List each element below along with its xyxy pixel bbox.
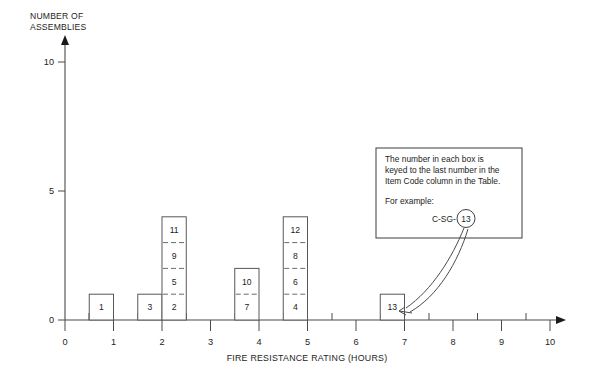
- bar-7: 710: [235, 268, 259, 320]
- bar-segment-value: 3: [147, 302, 152, 312]
- x-axis-title: FIRE RESISTANCE RATING (HOURS): [227, 353, 388, 363]
- annotation-callout: The number in each box is keyed to the l…: [376, 148, 522, 238]
- y-tick-label-0: 0: [49, 315, 54, 325]
- bar-segment-value: 1: [99, 302, 104, 312]
- bar-segment-value: 9: [172, 251, 177, 261]
- bar-13: 13: [380, 294, 404, 320]
- bar-segment-value: 5: [172, 277, 177, 287]
- annotation-leader-arrow: [399, 228, 468, 315]
- annotation-line-1: The number in each box is: [385, 154, 484, 164]
- fire-resistance-histogram-figure: NUMBER OF ASSEMBLIES 0 5 10: [0, 0, 605, 378]
- bar-segment-value: 13: [388, 302, 398, 312]
- annotation-example-circled-number: 13: [461, 214, 471, 224]
- x-tick-label-10: 10: [545, 337, 555, 347]
- bar-2: 25911: [162, 217, 186, 320]
- y-axis-arrowhead: [61, 35, 69, 45]
- bar-segment-value: 12: [291, 225, 301, 235]
- y-axis-title-line1: NUMBER OF: [30, 11, 83, 21]
- bar-segment-value: 7: [244, 302, 249, 312]
- x-tick-label-3: 3: [208, 337, 213, 347]
- x-tick-label-9: 9: [499, 337, 504, 347]
- bar-segment-value: 6: [293, 277, 298, 287]
- bars-group: 13259117104681213: [89, 217, 404, 320]
- x-tick-label-5: 5: [305, 337, 310, 347]
- x-axis-arrowhead: [556, 316, 566, 324]
- x-tick-label-7: 7: [402, 337, 407, 347]
- annotation-line-4: For example:: [385, 196, 434, 206]
- y-tick-label-5: 5: [49, 186, 54, 196]
- y-tick-label-10: 10: [44, 57, 54, 67]
- y-axis-title-line2: ASSEMBLIES: [30, 22, 87, 32]
- x-tick-label-0: 0: [62, 337, 67, 347]
- x-tick-label-2: 2: [159, 337, 164, 347]
- annotation-example-prefix: C-SG-: [432, 214, 456, 224]
- x-tick-label-1: 1: [111, 337, 116, 347]
- bar-segment-value: 10: [242, 277, 252, 287]
- x-axis-major-ticks: [65, 320, 550, 331]
- x-tick-label-8: 8: [450, 337, 455, 347]
- bar-3: 3: [138, 294, 162, 320]
- annotation-line-2: keyed to the last number in the: [385, 165, 500, 175]
- bar-segment-value: 2: [172, 302, 177, 312]
- x-tick-label-4: 4: [256, 337, 261, 347]
- bar-1: 1: [89, 294, 113, 320]
- bar-segment-value: 11: [170, 225, 179, 235]
- chart-canvas: NUMBER OF ASSEMBLIES 0 5 10: [0, 0, 605, 378]
- bar-segment-value: 4: [293, 302, 298, 312]
- annotation-line-3: Item Code column in the Table.: [385, 176, 500, 186]
- bar-segment-value: 8: [293, 251, 298, 261]
- x-tick-label-6: 6: [353, 337, 358, 347]
- bar-4: 46812: [283, 217, 307, 320]
